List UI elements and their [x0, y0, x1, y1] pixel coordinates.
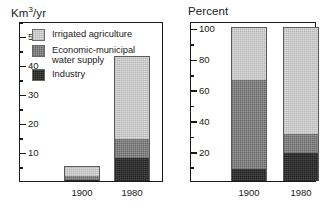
right-yminor-50 [190, 106, 194, 108]
left-yminor-45 [19, 51, 23, 53]
legend: Irrigated agriculture Economic-municipal… [32, 29, 154, 85]
right-ytick-80 [190, 60, 197, 62]
right-yminor-10 [190, 167, 194, 169]
left-yminor-35 [19, 80, 23, 82]
right-xlabel-1900: 1900 [231, 188, 267, 198]
left-yminor-15 [19, 138, 23, 140]
legend-label-economic-municipal-water-supply: Economic-municipal water supply [52, 45, 135, 65]
left-xlabel-1900: 1900 [64, 188, 100, 198]
left-yminor-25 [19, 109, 23, 111]
left-panel-title: Km3/yr [11, 6, 46, 19]
stacked-bar-figure: Km3/yr 50 40 30 20 10 1 [0, 0, 323, 214]
legend-label-irrigated-agriculture: Irrigated agriculture [52, 29, 132, 39]
right-bar-1900-segment-industry [232, 169, 266, 181]
right-ylabel-100: 100 [199, 24, 215, 34]
panel-km3-per-year: Km3/yr 50 40 30 20 10 1 [0, 0, 172, 214]
right-ylabel-20: 20 [199, 148, 210, 158]
right-bar-1980-segment-municipal [284, 134, 318, 154]
left-ylabel-20: 20 [28, 119, 39, 129]
right-ytick-20 [190, 152, 197, 154]
right-ytick-60 [190, 90, 197, 92]
left-title-main: Km [11, 7, 28, 19]
right-xlabel-1980: 1980 [283, 188, 319, 198]
left-ylabel-10: 10 [28, 148, 39, 158]
right-bar-1900 [231, 27, 267, 181]
legend-item-economic-municipal-water-supply: Economic-municipal water supply [32, 45, 154, 65]
legend-swatch-economic-municipal-water-supply [32, 45, 45, 57]
legend-item-irrigated-agriculture: Irrigated agriculture [32, 29, 154, 41]
right-yminor-30 [190, 137, 194, 139]
legend-item-industry: Industry [32, 69, 154, 81]
left-bar-1900-segment-irrigated [65, 167, 99, 175]
left-bar-1980-segment-industry [115, 158, 149, 181]
legend-label-industry: Industry [52, 69, 85, 79]
left-bar-1900-segment-industry [65, 180, 99, 181]
right-yminor-70 [190, 75, 194, 77]
right-ylabel-60: 60 [199, 86, 210, 96]
left-ytick-30 [19, 95, 26, 97]
left-title-rest: /yr [33, 7, 46, 19]
right-bar-1900-segment-municipal [232, 80, 266, 169]
right-ylabel-40: 40 [199, 117, 210, 127]
left-ylabel-30: 30 [28, 90, 39, 100]
legend-swatch-irrigated-agriculture [32, 29, 45, 41]
left-yminor-55 [19, 22, 23, 24]
right-ytick-40 [190, 121, 197, 123]
legend-swatch-industry [32, 69, 45, 81]
right-bar-1980-segment-irrigated [284, 28, 318, 133]
left-bar-1980-segment-municipal [115, 139, 149, 158]
right-ylabel-80: 80 [199, 55, 210, 65]
right-ytick-100 [190, 29, 197, 31]
right-yminor-90 [190, 44, 194, 46]
left-yminor-5 [19, 167, 23, 169]
right-bar-1980-segment-industry [284, 153, 318, 181]
left-ytick-40 [19, 66, 26, 68]
right-panel-title: Percent [188, 6, 228, 18]
right-bar-1980 [283, 27, 319, 181]
right-bar-1900-segment-irrigated [232, 28, 266, 80]
left-bar-1900 [64, 166, 100, 181]
left-ytick-10 [19, 153, 26, 155]
left-xlabel-1980: 1980 [114, 188, 150, 198]
left-ytick-50 [19, 37, 26, 39]
left-ytick-20 [19, 124, 26, 126]
